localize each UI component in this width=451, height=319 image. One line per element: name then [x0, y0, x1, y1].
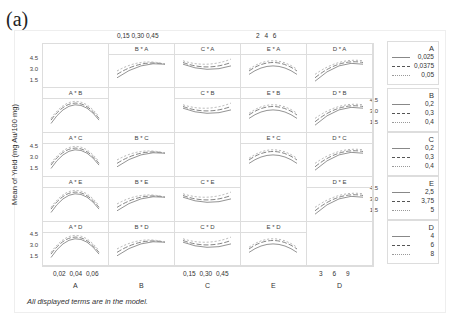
legend-c: C0,20,30,4	[387, 132, 439, 176]
legend-item: 0,3	[388, 109, 438, 118]
interaction-panel: E * C	[241, 133, 307, 177]
legend-level-label: 3,75	[421, 197, 434, 204]
line-style-swatch	[392, 122, 410, 123]
panel-lines	[109, 54, 173, 88]
interaction-panel: E * A	[241, 44, 307, 88]
panel-lines	[307, 187, 371, 221]
legend-level-label: 2,5	[425, 188, 434, 195]
interaction-panel: C * A	[175, 44, 241, 88]
legend-level-label: 0,4	[425, 162, 434, 169]
interaction-plot-matrix: B * AC * AE * AD * AA * BC * BE * BD * B…	[42, 43, 374, 267]
panel-lines	[43, 98, 107, 132]
interaction-panel: D * E	[307, 177, 373, 221]
line-style-swatch	[392, 254, 410, 255]
line-style-swatch	[392, 104, 410, 105]
legend-level-label: 0,025	[418, 53, 434, 60]
legend-item: 0,4	[388, 118, 438, 127]
legend-level-label: 4	[430, 232, 434, 239]
line-style-swatch	[392, 148, 410, 149]
panel-lines	[175, 232, 239, 266]
legend-item: 0,4	[388, 162, 438, 171]
interaction-panel: B * A	[109, 44, 175, 88]
line-style-swatch	[392, 236, 410, 237]
panel-lines	[175, 98, 239, 132]
panel-lines	[43, 187, 107, 221]
x-label-e: E	[271, 282, 276, 289]
legend-level-label: 8	[430, 250, 434, 257]
x-label-d: D	[337, 282, 342, 289]
empty-diagonal-cell	[307, 222, 373, 266]
empty-diagonal-cell	[43, 44, 109, 88]
top-ticks-e: 2 4 6	[256, 32, 276, 39]
line-style-swatch	[392, 57, 410, 58]
interaction-panel: D * A	[307, 44, 373, 88]
legend-level-label: 0,3	[425, 109, 434, 116]
empty-diagonal-cell	[109, 88, 175, 132]
legend-level-label: 0,3	[425, 153, 434, 160]
legend-level-label: 6	[430, 241, 434, 248]
panel-lines	[307, 98, 371, 132]
interaction-panel: C * D	[175, 222, 241, 266]
empty-diagonal-cell	[241, 177, 307, 221]
x-ticks-c: 0,15 0,30 0,45	[183, 270, 229, 277]
interaction-panel: A * E	[43, 177, 109, 221]
legend-title: E	[388, 179, 438, 188]
line-style-swatch	[392, 75, 410, 76]
panel-lines	[241, 54, 305, 88]
legend-item: 0,05	[388, 71, 438, 80]
interaction-panel: E * D	[241, 222, 307, 266]
interaction-panel: B * E	[109, 177, 175, 221]
interaction-panel: E * B	[241, 88, 307, 132]
legend-level-label: 0,2	[425, 144, 434, 151]
interaction-panel: C * B	[175, 88, 241, 132]
legend-item: 3,75	[388, 197, 438, 206]
panel-lines	[175, 187, 239, 221]
legend-e: E2,53,755	[387, 176, 439, 220]
legend-item: 0,3	[388, 153, 438, 162]
panel-lines	[109, 232, 173, 266]
x-label-a: A	[73, 282, 78, 289]
x-label-c: C	[205, 282, 210, 289]
legend-item: 0,2	[388, 100, 438, 109]
panel-lines	[43, 143, 107, 177]
empty-diagonal-cell	[175, 133, 241, 177]
legend-level-label: 0,4	[425, 118, 434, 125]
legend-item: 8	[388, 250, 438, 259]
panel-lines	[241, 143, 305, 177]
legend-level-label: 0,0375	[414, 62, 434, 69]
line-style-swatch	[392, 201, 410, 202]
panel-lines	[109, 143, 173, 177]
panel-lines	[175, 54, 239, 88]
legend-item: 5	[388, 206, 438, 215]
panel-lines	[241, 98, 305, 132]
x-label-b: B	[139, 282, 144, 289]
legend-title: D	[388, 223, 438, 232]
line-style-swatch	[392, 192, 410, 193]
panel-lines	[43, 232, 107, 266]
footnote: All displayed terms are in the model.	[27, 297, 148, 306]
line-style-swatch	[392, 157, 410, 158]
legend-item: 0,025	[388, 53, 438, 62]
panel-lines	[241, 232, 305, 266]
line-style-swatch	[392, 210, 410, 211]
legend-level-label: 0,05	[421, 71, 434, 78]
interaction-panel: A * C	[43, 133, 109, 177]
legend-title: C	[388, 135, 438, 144]
legend-a: A0,0250,03750,05	[387, 41, 439, 85]
interaction-panel: A * B	[43, 88, 109, 132]
interaction-panel: D * C	[307, 133, 373, 177]
y-axis-label: Mean of Yield (mg Au/100 mg)	[10, 104, 19, 205]
interaction-panel: A * D	[43, 222, 109, 266]
legend-item: 2,5	[388, 188, 438, 197]
legend-b: B0,20,30,4	[387, 88, 439, 132]
panel-lines	[109, 187, 173, 221]
interaction-panel: B * C	[109, 133, 175, 177]
interaction-panel: D * B	[307, 88, 373, 132]
legend-item: 6	[388, 241, 438, 250]
panel-lines	[307, 143, 371, 177]
legend-title: A	[388, 44, 438, 53]
legend-level-label: 5	[430, 206, 434, 213]
x-ticks-a: 0,02 0,04 0,06	[53, 270, 99, 277]
x-ticks-d: 3 6 9	[319, 270, 350, 277]
legend-item: 4	[388, 232, 438, 241]
